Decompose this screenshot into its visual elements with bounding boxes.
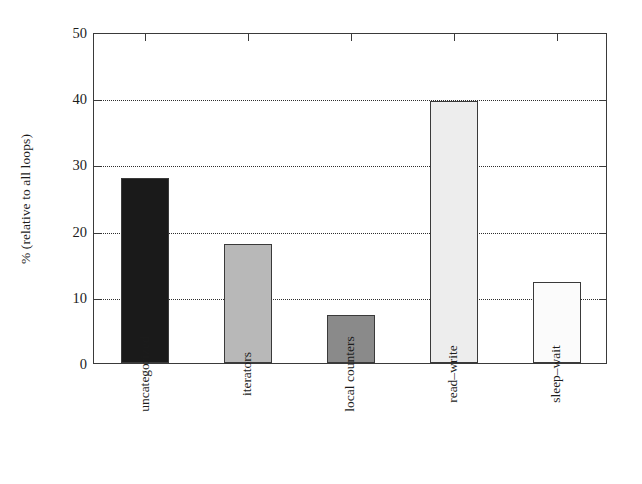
y-axis-tick-labels: 01020304050 — [49, 33, 87, 364]
x-axis-tick — [557, 34, 558, 41]
y-axis-label-text: % (relative to all loops) — [18, 134, 34, 264]
x-axis-tick-label: iterators — [189, 366, 305, 482]
x-axis-tick-labels: uncategorizediteratorslocal countersread… — [93, 366, 607, 482]
y-axis-tick-label: 0 — [53, 356, 87, 373]
y-axis-tick — [599, 100, 606, 101]
bar-read-write — [430, 101, 478, 363]
bar-chart-figure: % (relative to all loops) 01020304050 un… — [0, 0, 642, 484]
x-axis-tick — [248, 34, 249, 41]
y-axis-tick-label: 20 — [53, 223, 87, 240]
y-axis-tick — [94, 166, 101, 167]
y-axis-tick — [599, 299, 606, 300]
x-axis-tick — [145, 34, 146, 41]
y-axis-tick — [599, 166, 606, 167]
x-axis-tick — [454, 34, 455, 41]
x-axis-tick-label: local counters — [292, 366, 408, 482]
plot-area — [93, 33, 607, 364]
x-axis-tick-label: sleep–wait — [498, 366, 614, 482]
x-axis-tick-label-text: read–write — [445, 345, 461, 403]
gridline — [94, 100, 606, 101]
y-axis-label: % (relative to all loops) — [0, 0, 52, 398]
bar-iterators — [224, 244, 272, 363]
y-axis-tick — [94, 233, 101, 234]
x-axis-tick-label-text: iterators — [239, 352, 255, 396]
x-axis-tick-label-text: sleep–wait — [548, 345, 564, 403]
y-axis-tick — [94, 299, 101, 300]
y-axis-tick — [94, 100, 101, 101]
x-axis-tick — [351, 34, 352, 41]
x-axis-tick-label: read–write — [395, 366, 511, 482]
y-axis-tick — [599, 233, 606, 234]
x-axis-tick-label: uncategorized — [86, 366, 202, 482]
x-axis-tick-label-text: uncategorized — [136, 336, 152, 412]
y-axis-tick-label: 40 — [53, 91, 87, 108]
gridline — [94, 233, 606, 234]
y-axis-tick-label: 10 — [53, 289, 87, 306]
gridline — [94, 166, 606, 167]
gridline — [94, 299, 606, 300]
x-axis-tick-label-text: local counters — [342, 336, 358, 411]
y-axis-tick-label: 30 — [53, 157, 87, 174]
y-axis-tick-label: 50 — [53, 25, 87, 42]
